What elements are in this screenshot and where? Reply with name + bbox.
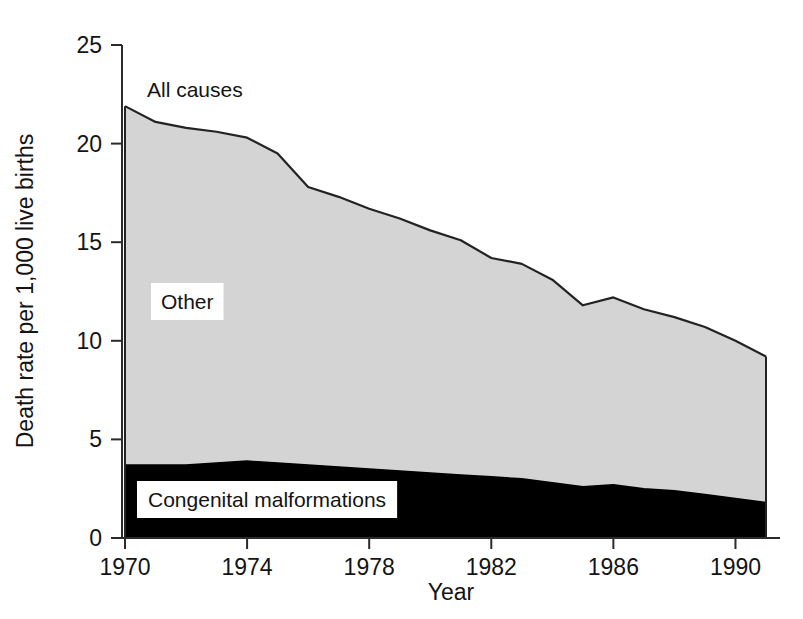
y-tick-label: 20 [76, 131, 102, 157]
x-tick-label: 1974 [222, 554, 273, 580]
y-tick-label: 25 [76, 32, 102, 58]
y-tick-label: 15 [76, 229, 102, 255]
plot-areas [125, 106, 766, 538]
y-axis-title: Death rate per 1,000 live births [12, 134, 38, 449]
x-axis-ticks: 197019741978198219861990 [99, 538, 761, 580]
x-axis-title: Year [428, 579, 475, 605]
y-axis-ticks: 0510152025 [76, 32, 122, 551]
x-tick-label: 1982 [466, 554, 517, 580]
x-tick-label: 1986 [588, 554, 639, 580]
y-tick-label: 0 [89, 525, 102, 551]
chart-figure: 0510152025 197019741978198219861990 Year… [0, 0, 803, 619]
annotation-other: Other [151, 283, 224, 320]
congenital-label: Congenital malformations [148, 488, 386, 511]
other-label: Other [161, 290, 214, 313]
annotation-congenital: Congenital malformations [137, 481, 397, 518]
annotation-all-causes: All causes [147, 78, 243, 101]
y-tick-label: 5 [89, 426, 102, 452]
all-causes-label: All causes [147, 78, 243, 101]
x-tick-label: 1978 [344, 554, 395, 580]
x-tick-label: 1970 [99, 554, 150, 580]
y-tick-label: 10 [76, 328, 102, 354]
area-chart: 0510152025 197019741978198219861990 Year… [0, 0, 803, 619]
x-tick-label: 1990 [710, 554, 761, 580]
